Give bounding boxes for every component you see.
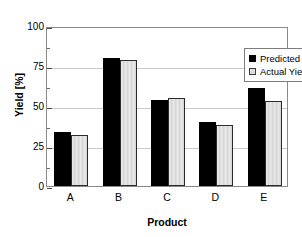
y-axis-title: Yield [%] <box>13 45 25 145</box>
y-tick-label: 100 <box>4 22 44 32</box>
y-tick-mark <box>47 108 52 109</box>
bar-actual-yield-e <box>265 101 282 186</box>
x-tick-label-b: B <box>95 191 143 203</box>
y-minor-tick-mark <box>47 48 50 49</box>
x-tick-label-e: E <box>240 191 288 203</box>
bar-actual-yield-d <box>216 125 233 186</box>
x-axis-title: Product <box>46 216 288 228</box>
x-tick-label-d: D <box>191 191 239 203</box>
legend-swatch-actual-yield <box>249 68 256 75</box>
bar-predicted-yield-e <box>248 88 265 186</box>
y-tick-mark <box>47 68 52 69</box>
y-tick-label: 75 <box>4 62 44 72</box>
legend-label-predicted-yield: Predicted Yield <box>260 54 302 64</box>
y-tick-label: 50 <box>4 102 44 112</box>
legend-item-predicted-yield: Predicted Yield <box>249 52 302 65</box>
x-tick-label-a: A <box>46 191 94 203</box>
y-tick-mark <box>47 28 52 29</box>
legend-item-actual-yield: Actual Yield <box>249 65 302 78</box>
x-tick-label-c: C <box>143 191 191 203</box>
y-minor-tick-mark <box>47 168 50 169</box>
bar-actual-yield-a <box>71 135 88 186</box>
y-minor-tick-mark <box>47 88 50 89</box>
bar-actual-yield-c <box>168 98 185 186</box>
legend-swatch-predicted-yield <box>249 55 256 62</box>
bar-actual-yield-b <box>120 60 137 186</box>
plot-area: Predicted Yield Actual Yield <box>46 27 288 187</box>
bar-predicted-yield-b <box>103 58 120 186</box>
chart-legend: Predicted Yield Actual Yield <box>244 48 302 82</box>
y-tick-mark <box>47 188 52 189</box>
legend-label-actual-yield: Actual Yield <box>260 67 302 77</box>
y-minor-tick-mark <box>47 128 50 129</box>
y-tick-label: 25 <box>4 142 44 152</box>
y-tick-label: 0 <box>4 182 44 192</box>
bar-predicted-yield-a <box>54 132 71 186</box>
bar-chart-figure: Yield [%] Product 0255075100 ABCDE Predi… <box>0 0 302 237</box>
bar-predicted-yield-d <box>199 122 216 186</box>
y-tick-mark <box>47 148 52 149</box>
bar-predicted-yield-c <box>151 100 168 186</box>
